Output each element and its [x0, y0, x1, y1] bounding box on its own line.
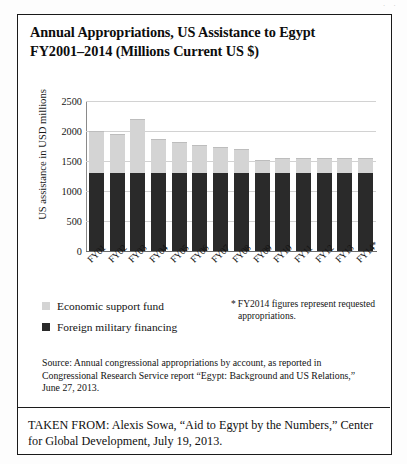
bar-FY12: [317, 101, 332, 251]
legend-label-fmf: Foreign military financing: [57, 321, 177, 333]
bar-segment-esf-FY04: [151, 139, 166, 173]
page-corner-mark: · ·: [383, 1, 399, 10]
x-tick-FY10: FY10: [275, 253, 290, 303]
chart-footnote: *FY2014 figures represent requested appr…: [231, 298, 379, 323]
bar-FY02: [110, 101, 125, 251]
bar-segment-fmf-FY05: [172, 173, 187, 251]
x-tick-FY12: FY12: [317, 253, 332, 303]
bar-FY13: [337, 101, 352, 251]
bar-FY04: [151, 101, 166, 251]
bar-segment-esf-FY13: [337, 158, 352, 173]
bar-FY09: [255, 101, 270, 251]
x-tick-FY07: FY07: [213, 253, 228, 303]
bar-series-group: [86, 101, 376, 251]
footnote-line-1: FY2014 figures represent requested: [238, 298, 375, 309]
footnote-asterisk-icon: *: [231, 298, 236, 309]
legend-label-esf: Economic support fund: [57, 300, 164, 312]
plot-area: [86, 101, 376, 251]
y-tick-label-2500: 2500: [34, 96, 82, 107]
bar-FY01: [89, 101, 104, 251]
legend-item-economic-support-fund: Economic support fund: [42, 297, 242, 315]
bar-FY10: [275, 101, 290, 251]
bar-segment-fmf-FY06: [192, 173, 207, 251]
bar-segment-esf-FY06: [192, 145, 207, 173]
chart: US assistance in USD millions 0500100015…: [24, 69, 386, 309]
x-tick-FY09: FY09: [255, 253, 270, 303]
figure-frame: Annual Appropriations, US Assistance to …: [17, 14, 392, 455]
figure-title: Annual Appropriations, US Assistance to …: [30, 23, 382, 60]
section-divider: [18, 407, 390, 408]
bar-segment-esf-FY01: [89, 131, 104, 173]
bar-segment-esf-FY07: [213, 147, 228, 173]
bar-segment-fmf-FY08: [234, 173, 249, 251]
bar-segment-fmf-FY02: [110, 173, 125, 251]
source-note: Source: Annual congressional appropriati…: [42, 357, 372, 395]
page-canvas: · · Annual Appropriations, US Assistance…: [0, 0, 407, 464]
title-line-2: FY2001–2014 (Millions Current US $): [30, 42, 382, 61]
y-tick-label-0: 0: [34, 246, 82, 257]
bar-segment-fmf-FY11: [296, 173, 311, 251]
bar-segment-fmf-FY01: [89, 173, 104, 251]
taken-from-attribution: TAKEN FROM: Alexis Sowa, “Aid to Egypt b…: [28, 417, 380, 450]
x-tick-FY05: FY05: [172, 253, 187, 303]
y-tick-label-1000: 1000: [34, 186, 82, 197]
bar-segment-fmf-FY10: [275, 173, 290, 251]
footnote-line-2: appropriations.: [231, 310, 379, 322]
bar-segment-fmf-FY09: [255, 173, 270, 251]
x-tick-FY14: FY14*: [358, 253, 373, 303]
x-tick-FY01: FY01: [89, 253, 104, 303]
bar-segment-esf-FY10: [275, 158, 290, 173]
bar-segment-esf-FY09: [255, 160, 270, 173]
bar-FY14: [358, 101, 373, 251]
bar-FY05: [172, 101, 187, 251]
x-tick-FY03: FY03: [130, 253, 145, 303]
bar-FY08: [234, 101, 249, 251]
bar-segment-fmf-FY12: [317, 173, 332, 251]
legend-item-foreign-military-financing: Foreign military financing: [42, 318, 242, 336]
x-tick-FY08: FY08: [234, 253, 249, 303]
bar-FY03: [130, 101, 145, 251]
legend-swatch-icon-fmf: [42, 323, 50, 331]
bar-segment-fmf-FY07: [213, 173, 228, 251]
bar-segment-esf-FY03: [130, 119, 145, 173]
bar-FY07: [213, 101, 228, 251]
bar-FY06: [192, 101, 207, 251]
bar-segment-esf-FY02: [110, 134, 125, 173]
legend-swatch-icon-esf: [42, 302, 50, 310]
x-tick-FY11: FY11: [296, 253, 311, 303]
x-tick-FY13: FY13: [337, 253, 352, 303]
y-tick-label-2000: 2000: [34, 126, 82, 137]
bar-segment-fmf-FY03: [130, 173, 145, 251]
bar-segment-esf-FY05: [172, 142, 187, 173]
chart-legend: Economic support fund Foreign military f…: [42, 297, 242, 339]
x-tick-FY04: FY04: [151, 253, 166, 303]
bar-FY11: [296, 101, 311, 251]
bar-segment-esf-FY12: [317, 158, 332, 173]
y-tick-label-1500: 1500: [34, 156, 82, 167]
bar-segment-fmf-FY13: [337, 173, 352, 251]
bar-segment-esf-FY08: [234, 149, 249, 173]
bar-segment-esf-FY14: [358, 158, 373, 173]
y-tick-label-500: 500: [34, 216, 82, 227]
bar-segment-esf-FY11: [296, 158, 311, 173]
x-axis-tick-labels: FY01FY02FY03FY04FY05FY06FY07FY08FY09FY10…: [86, 253, 376, 303]
x-tick-FY02: FY02: [110, 253, 125, 303]
x-tick-FY06: FY06: [192, 253, 207, 303]
y-axis-tick-labels: 05001000150020002500: [28, 101, 82, 251]
title-line-1: Annual Appropriations, US Assistance to …: [30, 23, 382, 42]
bar-segment-fmf-FY04: [151, 173, 166, 251]
